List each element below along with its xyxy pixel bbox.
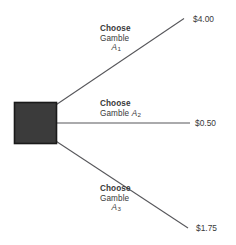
branch-a2-gamble-line: Gamble A2 <box>100 109 141 120</box>
branch-a1-gamble-text: Gamble <box>100 34 131 44</box>
payoff-value-a3: $1.75 <box>196 223 217 233</box>
payoff-value-a1: $4.00 <box>193 14 214 24</box>
branch-label-a3: Choose Gamble A3 <box>100 184 131 214</box>
decision-tree-diagram: Choose Gamble A1 Choose Gamble A2 Choose… <box>0 0 236 245</box>
branch-a2-gamble-text: Gamble <box>100 109 129 118</box>
branch-label-a2: Choose Gamble A2 <box>100 99 141 119</box>
branch-a3-gamble-text: Gamble <box>100 194 131 204</box>
branch-a3-variable-subscript: 3 <box>117 205 121 212</box>
branch-a1-variable-subscript: 1 <box>117 45 121 52</box>
branch-a1-choose-text: Choose <box>100 24 131 34</box>
branch-a2-variable-subscript: 2 <box>137 111 141 118</box>
branch-label-a1: Choose Gamble A1 <box>100 24 131 54</box>
branch-a2-choose-text: Choose <box>100 99 141 109</box>
payoff-value-a2: $0.50 <box>195 118 216 128</box>
branch-a1-variable: A1 <box>100 43 131 54</box>
branch-a3-choose-text: Choose <box>100 184 131 194</box>
branch-a3-variable: A3 <box>100 203 131 214</box>
decision-node-square <box>15 103 57 144</box>
